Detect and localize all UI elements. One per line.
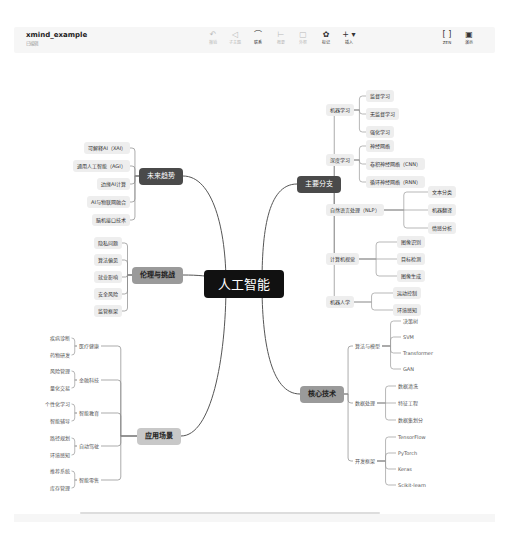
leaf-topic[interactable]: 循环神经网络（RNN） bbox=[366, 176, 425, 188]
sub-topic[interactable]: 自然语言处理（NLP） bbox=[326, 204, 384, 216]
leaf-topic[interactable]: 无监督学习 bbox=[366, 108, 399, 120]
leaf-topic[interactable]: 监督学习 bbox=[366, 90, 394, 102]
leaf-topic[interactable]: 特征工程 bbox=[396, 398, 420, 408]
document-title[interactable]: xmind_example bbox=[26, 31, 87, 39]
sub-topic[interactable]: 就业影响 bbox=[94, 271, 122, 283]
zen-button[interactable]: [ ]ZEN bbox=[437, 30, 457, 46]
leaf-topic[interactable]: 情感分析 bbox=[428, 222, 456, 234]
leaf-topic[interactable]: PyTorch bbox=[396, 448, 419, 458]
boundary-icon: ▢ bbox=[293, 30, 313, 40]
leaf-topic[interactable]: 强化学习 bbox=[366, 126, 394, 138]
leaf-topic[interactable]: 药物研发 bbox=[48, 350, 72, 360]
leaf-topic[interactable]: 库存管理 bbox=[48, 483, 72, 493]
insert-label: 插入 bbox=[339, 40, 359, 46]
undo-label: 撤销 bbox=[203, 40, 223, 46]
sub-topic[interactable]: 深度学习 bbox=[326, 154, 354, 166]
boundary-button[interactable]: ▢外框 bbox=[293, 30, 313, 46]
sub-topic[interactable]: 医疗健康 bbox=[77, 341, 101, 351]
leaf-topic[interactable]: 智能辅导 bbox=[48, 416, 72, 426]
leaf-topic[interactable]: 图像识别 bbox=[397, 236, 425, 248]
sub-topic[interactable]: AI与物联网融合 bbox=[87, 196, 130, 208]
leaf-topic[interactable]: 神经网络 bbox=[366, 140, 394, 152]
relation-button[interactable]: ⌒联系 bbox=[248, 30, 268, 46]
sub-topic[interactable]: 智能教育 bbox=[77, 408, 101, 418]
main-topic-1[interactable]: 核心技术 bbox=[300, 386, 344, 403]
leaf-topic[interactable]: 文本分类 bbox=[428, 186, 456, 198]
redo-label: 子主题 bbox=[225, 40, 245, 46]
leaf-topic[interactable]: 量化交易 bbox=[48, 383, 72, 393]
sub-topic[interactable]: 可解释AI（XAI） bbox=[84, 142, 130, 154]
leaf-topic[interactable]: Transformer bbox=[401, 348, 435, 358]
sub-topic[interactable]: 机器人学 bbox=[326, 296, 354, 308]
leaf-topic[interactable]: 风险管理 bbox=[48, 366, 72, 376]
bottom-bar bbox=[14, 514, 495, 522]
main-topic-3[interactable]: 伦理与挑战 bbox=[132, 267, 183, 284]
leaf-topic[interactable]: 个性化学习 bbox=[43, 399, 72, 409]
boundary-label: 外框 bbox=[293, 40, 313, 46]
marker-label: 标记 bbox=[316, 40, 336, 46]
leaf-topic[interactable]: 路径规划 bbox=[48, 433, 72, 443]
sub-topic[interactable]: 计算机视觉 bbox=[326, 253, 359, 265]
mindmap-canvas[interactable]: 人工智能主要分支机器学习监督学习无监督学习强化学习深度学习神经网络卷积神经网络（… bbox=[0, 56, 509, 506]
summary-icon: ⊢ bbox=[271, 30, 291, 40]
leaf-topic[interactable]: SVM bbox=[401, 332, 416, 342]
leaf-topic[interactable]: 疾病诊断 bbox=[48, 333, 72, 343]
root-topic[interactable]: 人工智能 bbox=[204, 270, 284, 298]
leaf-topic[interactable]: TensorFlow bbox=[396, 432, 428, 442]
xmind-app: xmind_example 已编辑 ↶撤销◁子主题⌒联系⊢概要▢外框✿标记+ ▾… bbox=[0, 0, 509, 542]
document-status: 已编辑 bbox=[26, 40, 38, 46]
sub-topic[interactable]: 安全风险 bbox=[94, 288, 122, 300]
leaf-topic[interactable]: 运动控制 bbox=[393, 287, 421, 299]
sub-topic[interactable]: 数据处理 bbox=[353, 398, 377, 408]
sub-topic[interactable]: 智能零售 bbox=[77, 475, 101, 485]
sub-topic[interactable]: 金融科技 bbox=[77, 375, 101, 385]
sub-topic[interactable]: 隐私问题 bbox=[94, 237, 122, 249]
present-label: 演示 bbox=[459, 40, 479, 46]
main-topic-4[interactable]: 应用场景 bbox=[137, 428, 181, 445]
marker-button[interactable]: ✿标记 bbox=[316, 30, 336, 46]
leaf-topic[interactable]: Keras bbox=[396, 464, 414, 474]
sub-topic[interactable]: 自动驾驶 bbox=[77, 441, 101, 451]
sub-topic[interactable]: 脑机接口技术 bbox=[92, 214, 130, 226]
sub-topic[interactable]: 算法偏见 bbox=[94, 254, 122, 266]
marker-icon: ✿ bbox=[316, 30, 336, 40]
redo-icon: ◁ bbox=[225, 30, 245, 40]
plus-icon: + ▾ bbox=[339, 30, 359, 40]
leaf-topic[interactable]: 环境感知 bbox=[393, 304, 421, 316]
insert-button[interactable]: + ▾插入 bbox=[339, 30, 359, 46]
leaf-topic[interactable]: 图像生成 bbox=[397, 270, 425, 282]
top-toolbar: xmind_example 已编辑 ↶撤销◁子主题⌒联系⊢概要▢外框✿标记+ ▾… bbox=[14, 27, 495, 53]
redo-button[interactable]: ◁子主题 bbox=[225, 30, 245, 46]
undo-button[interactable]: ↶撤销 bbox=[203, 30, 223, 46]
main-topic-0[interactable]: 主要分支 bbox=[297, 176, 341, 193]
relation-label: 联系 bbox=[248, 40, 268, 46]
leaf-topic[interactable]: 推荐系统 bbox=[48, 466, 72, 476]
sub-topic[interactable]: 机器学习 bbox=[326, 104, 354, 116]
sub-topic[interactable]: 开发框架 bbox=[353, 456, 377, 466]
leaf-topic[interactable]: Scikit-learn bbox=[396, 480, 428, 490]
sub-topic[interactable]: 通用人工智能（AGI） bbox=[73, 160, 130, 172]
leaf-topic[interactable]: 数据清洗 bbox=[396, 381, 420, 391]
undo-icon: ↶ bbox=[203, 30, 223, 40]
fullscreen-icon: [ ] bbox=[437, 30, 457, 40]
leaf-topic[interactable]: 决策树 bbox=[401, 316, 420, 326]
sub-topic[interactable]: 边缘AI计算 bbox=[97, 178, 130, 190]
present-button[interactable]: ▣演示 bbox=[459, 30, 479, 46]
sub-topic[interactable]: 监管框架 bbox=[94, 305, 122, 317]
summary-button[interactable]: ⊢概要 bbox=[271, 30, 291, 46]
leaf-topic[interactable]: 机器翻译 bbox=[428, 204, 456, 216]
leaf-topic[interactable]: 数据集划分 bbox=[396, 415, 425, 425]
relation-icon: ⌒ bbox=[248, 30, 268, 40]
zen-label: ZEN bbox=[437, 40, 457, 46]
leaf-topic[interactable]: GAN bbox=[401, 364, 416, 374]
leaf-topic[interactable]: 卷积神经网络（CNN） bbox=[366, 158, 425, 170]
main-topic-2[interactable]: 未来趋势 bbox=[139, 168, 183, 185]
present-icon: ▣ bbox=[459, 30, 479, 40]
leaf-topic[interactable]: 环境感知 bbox=[48, 450, 72, 460]
sub-topic[interactable]: 算法与模型 bbox=[353, 341, 382, 351]
summary-label: 概要 bbox=[271, 40, 291, 46]
leaf-topic[interactable]: 目标检测 bbox=[397, 253, 425, 265]
